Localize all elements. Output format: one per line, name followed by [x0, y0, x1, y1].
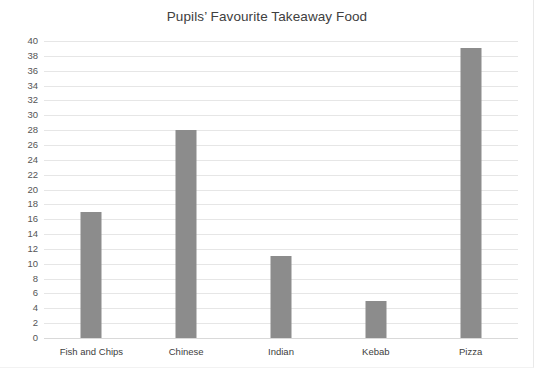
y-axis-tick-label: 16	[0, 214, 38, 224]
gridline	[44, 56, 518, 57]
y-axis-tick-label: 28	[0, 125, 38, 135]
gridline	[44, 86, 518, 87]
y-axis-tick-label: 10	[0, 259, 38, 269]
bar	[365, 301, 386, 338]
y-axis-tick-label: 20	[0, 185, 38, 195]
y-axis-tick-label: 34	[0, 81, 38, 91]
chart-title: Pupils’ Favourite Takeaway Food	[0, 9, 534, 24]
plot-area: 0246810121416182022242628303234363840 Fi…	[44, 41, 518, 338]
gridline	[44, 71, 518, 72]
x-axis-tick-label: Pizza	[459, 347, 482, 357]
y-axis-tick-label: 40	[0, 36, 38, 46]
gridline	[44, 219, 518, 220]
gridline	[44, 100, 518, 101]
y-axis-tick-label: 2	[0, 318, 38, 328]
y-axis-tick-label: 24	[0, 155, 38, 165]
x-axis-tick-label: Kebab	[362, 347, 389, 357]
y-axis-tick-label: 30	[0, 111, 38, 121]
gridline	[44, 160, 518, 161]
y-axis-tick-label: 6	[0, 289, 38, 299]
y-axis-tick-label: 8	[0, 274, 38, 284]
gridline	[44, 130, 518, 131]
gridline	[44, 145, 518, 146]
bar	[460, 48, 481, 338]
gridline	[44, 249, 518, 250]
bar	[176, 130, 197, 338]
y-axis-tick-label: 0	[0, 333, 38, 343]
y-axis-tick-label: 22	[0, 170, 38, 180]
y-axis-tick-label: 14	[0, 229, 38, 239]
y-axis-tick-label: 32	[0, 96, 38, 106]
y-axis-tick-label: 38	[0, 51, 38, 61]
bar	[81, 212, 102, 338]
gridline	[44, 190, 518, 191]
bar-chart: Pupils’ Favourite Takeaway Food 02468101…	[0, 0, 534, 368]
x-axis-tick-label: Indian	[268, 347, 294, 357]
x-axis-tick-label: Fish and Chips	[60, 347, 123, 357]
y-axis-tick-label: 26	[0, 140, 38, 150]
gridline	[44, 41, 518, 42]
bar	[271, 256, 292, 338]
x-axis-tick-label: Chinese	[169, 347, 204, 357]
gridline	[44, 204, 518, 205]
y-axis-tick-label: 4	[0, 304, 38, 314]
gridline	[44, 338, 518, 339]
y-axis-tick-label: 12	[0, 244, 38, 254]
y-axis-tick-label: 36	[0, 66, 38, 76]
y-axis-tick-label: 18	[0, 200, 38, 210]
gridline	[44, 175, 518, 176]
gridline	[44, 115, 518, 116]
gridline	[44, 234, 518, 235]
